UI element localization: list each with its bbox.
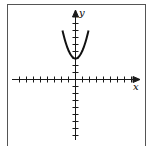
y-axis-label: y [78,7,85,18]
axes [12,10,140,140]
frame [8,5,146,147]
y-arrow-icon [73,10,79,17]
graph: x y [0,0,147,146]
x-axis-label: x [133,81,139,92]
